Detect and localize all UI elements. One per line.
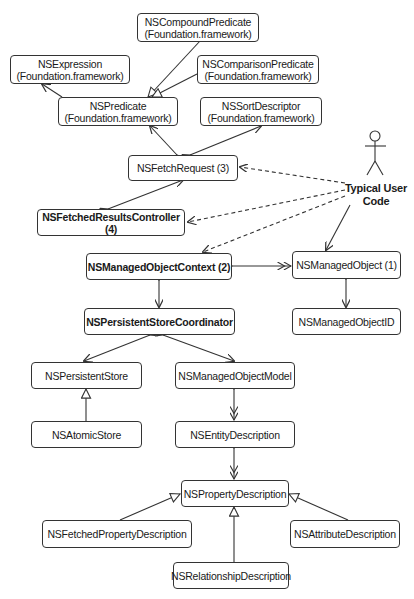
class-nssortdescriptor: NSSortDescriptor (Foundation.framework) xyxy=(200,97,322,126)
class-name: NSComparisonPredicate xyxy=(202,58,313,70)
class-name: NSPredicate xyxy=(90,100,147,112)
class-framework: (Foundation.framework) xyxy=(204,70,311,82)
class-nsexpression: NSExpression (Foundation.framework) xyxy=(10,55,130,84)
edge-frc-to-fetchrequest xyxy=(108,180,183,209)
class-framework: (Foundation.framework) xyxy=(207,112,314,124)
edge-psc-to-store xyxy=(84,335,150,361)
class-nscompoundpredicate: NSCompoundPredicate (Foundation.framewor… xyxy=(137,13,259,42)
class-name: NSRelationshipDescription xyxy=(171,570,291,582)
class-name: NSPropertyDescription xyxy=(184,488,287,500)
class-nsattributedescription: NSAttributeDescription xyxy=(290,520,400,548)
class-nsmanagedobject: NSManagedObject (1) xyxy=(292,251,401,279)
class-name: NSExpression xyxy=(38,58,102,70)
class-nsmanagedobjectmodel: NSManagedObjectModel xyxy=(175,362,295,389)
class-name: NSManagedObjectModel xyxy=(178,370,291,382)
class-nspersistentstore: NSPersistentStore xyxy=(31,362,142,389)
class-nsentitydescription: NSEntityDescription xyxy=(175,421,295,448)
class-nsfetchrequest: NSFetchRequest (3) xyxy=(128,155,238,181)
class-name: NSAttributeDescription xyxy=(294,528,396,540)
class-framework: (Foundation.framework) xyxy=(64,112,171,124)
class-nspropertydescription: NSPropertyDescription xyxy=(181,480,289,507)
edge-psc-to-model xyxy=(163,335,234,361)
class-nspredicate: NSPredicate (Foundation.framework) xyxy=(58,97,178,126)
class-nsmanagedobjectid: NSManagedObjectID xyxy=(292,308,401,335)
actor-stick-figure-icon xyxy=(365,131,386,175)
class-nsrelationshipdescription: NSRelationshipDescription xyxy=(173,562,289,589)
class-nsmanagedobjectcontext: NSManagedObjectContext (2) xyxy=(86,253,232,280)
class-framework: (Foundation.framework) xyxy=(144,28,251,40)
class-name: NSPersistentStore xyxy=(45,370,128,382)
edge-fetchrequest-to-predicate xyxy=(150,126,177,155)
actor-typical-user-code: Typical User Code xyxy=(343,182,409,208)
class-name: NSManagedObject (1) xyxy=(296,259,397,271)
class-name: NSPersistentStoreCoordinator xyxy=(86,316,233,328)
class-nsatomicstore: NSAtomicStore xyxy=(31,421,142,448)
relationship-edges xyxy=(0,0,414,599)
edge-compound-to-predicate xyxy=(148,41,200,97)
class-nsfetchedresultscontroller: NSFetchedResultsController (4) xyxy=(37,209,185,236)
class-nspersistentstorecoordinator: NSPersistentStoreCoordinator xyxy=(84,308,235,335)
class-nsfetchedpropertydescription: NSFetchedPropertyDescription xyxy=(42,520,192,548)
edge-user-to-fetchrequest xyxy=(240,167,345,183)
class-nscomparisonpredicate: NSComparisonPredicate (Foundation.framew… xyxy=(197,55,319,84)
class-name: NSEntityDescription xyxy=(190,429,280,441)
class-name: NSManagedObjectContext (2) xyxy=(88,261,230,273)
edge-fetchedprop-to-property xyxy=(120,494,180,520)
class-name: NSFetchedResultsController (4) xyxy=(38,211,184,235)
edge-predicate-to-expression xyxy=(42,84,62,97)
class-name: NSSortDescriptor xyxy=(222,100,301,112)
actor-label-line1: Typical User xyxy=(343,182,409,195)
edge-fetchrequest-to-sortdescriptor xyxy=(190,126,261,155)
class-name: NSCompoundPredicate xyxy=(145,16,252,28)
class-name: NSFetchedPropertyDescription xyxy=(47,528,186,540)
class-framework: (Foundation.framework) xyxy=(16,70,123,82)
edge-user-to-frc xyxy=(188,190,345,222)
actor-label-line2: Code xyxy=(343,195,409,208)
class-name: NSFetchRequest (3) xyxy=(137,162,229,174)
class-name: NSAtomicStore xyxy=(52,429,121,441)
edge-user-to-managedobject xyxy=(326,205,350,250)
class-name: NSManagedObjectID xyxy=(299,316,395,328)
edge-attribute-to-property xyxy=(289,494,348,520)
